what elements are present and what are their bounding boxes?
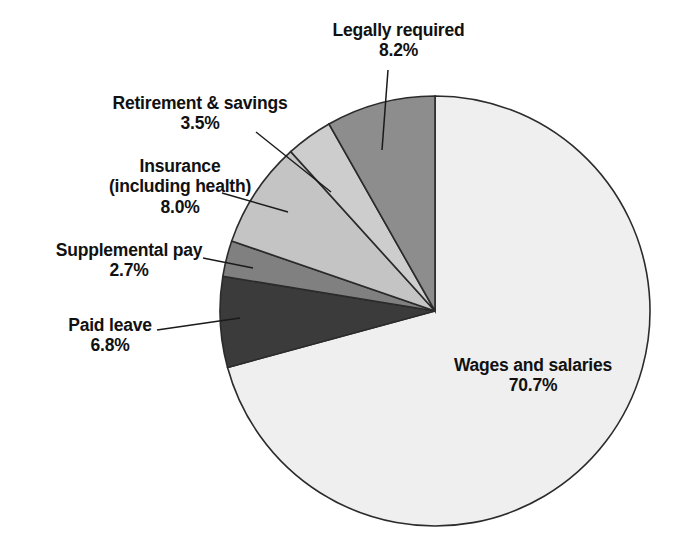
slice-label-wages-and-salaries-value: 70.7% [428,375,638,395]
slice-label-wages-and-salaries-name: Wages and salaries [428,355,638,375]
slice-label-insurance-name-line1: Insurance [70,156,290,176]
slice-label-legally-required-value: 8.2% [311,40,486,60]
pie-chart: Legally required 8.2% Retirement & savin… [0,0,682,554]
slice-label-insurance-name-line2: (including health) [70,176,290,196]
slice-label-paid-leave-value: 6.8% [20,335,200,355]
slice-label-legally-required: Legally required 8.2% [311,20,486,61]
slice-label-wages-and-salaries: Wages and salaries 70.7% [428,355,638,396]
slice-label-legally-required-name: Legally required [311,20,486,40]
slice-label-paid-leave: Paid leave 6.8% [20,315,200,356]
slice-label-retirement-savings: Retirement & savings 3.5% [100,93,300,134]
slice-label-insurance: Insurance (including health) 8.0% [70,156,290,217]
slice-label-supplemental-pay: Supplemental pay 2.7% [20,240,238,281]
slice-label-paid-leave-name: Paid leave [20,315,200,335]
slice-label-supplemental-pay-name: Supplemental pay [20,240,238,260]
slice-label-supplemental-pay-value: 2.7% [20,260,238,280]
slice-label-retirement-savings-value: 3.5% [100,113,300,133]
slice-label-insurance-value: 8.0% [70,197,290,217]
slice-label-retirement-savings-name: Retirement & savings [100,93,300,113]
